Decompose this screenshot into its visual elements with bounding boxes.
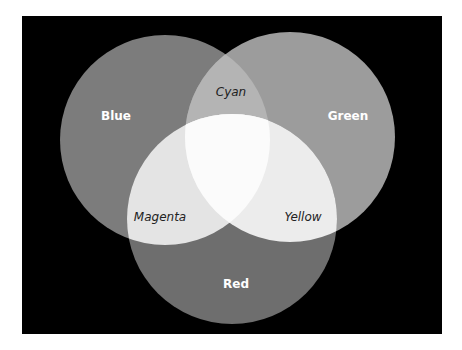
label-cyan: Cyan xyxy=(216,85,246,99)
label-blue: Blue xyxy=(101,109,131,123)
label-magenta: Magenta xyxy=(134,210,186,224)
label-yellow: Yellow xyxy=(284,210,321,224)
label-green: Green xyxy=(328,109,369,123)
label-red: Red xyxy=(223,277,249,291)
venn-diagram xyxy=(0,0,462,350)
